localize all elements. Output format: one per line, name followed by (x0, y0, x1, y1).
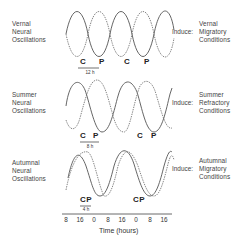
vernal-result-label: Vernal Migratory Conditions (199, 20, 230, 44)
vernal-interval-label: 12 h (80, 70, 100, 75)
label-line: Summer (12, 91, 46, 99)
vernal-p-wave (66, 12, 174, 58)
vernal-waves (66, 11, 174, 57)
axis-tick: 0 (129, 216, 143, 223)
summer-waves (66, 80, 172, 132)
autumnal-marker-cp1: CP (80, 195, 92, 204)
label-line: Oscillations (12, 36, 46, 44)
label-line: Migratory (199, 165, 230, 173)
label-line: Summer (199, 91, 230, 99)
summer-marker-c1: C (80, 131, 86, 140)
autumnal-interval-label: 4 h (78, 207, 94, 212)
summer-c-wave (66, 82, 172, 132)
label-line: Neural (12, 28, 46, 36)
summer-marker-p1: P (93, 131, 98, 140)
label-line: Neural (12, 167, 46, 175)
autumnal-c-wave (68, 151, 172, 196)
label-line: Vernal (12, 20, 46, 28)
axis-tick: 8 (143, 216, 157, 223)
vernal-marker-c1: C (80, 57, 86, 66)
summer-p-wave (66, 80, 172, 132)
label-line: Conditions (199, 107, 230, 115)
axis-title: Time (hours) (99, 227, 138, 234)
autumnal-marker-cp2: CP (133, 195, 145, 204)
autumnal-result-label: Autumnal Migratory Conditions (199, 157, 230, 181)
label-line: Autumnal (199, 157, 230, 165)
label-line: Autumnal (12, 159, 46, 167)
summer-induce-label: Induce: (172, 99, 193, 106)
label-line: Conditions (199, 36, 230, 44)
autumnal-season-label: Autumnal Neural Oscillations (12, 159, 46, 183)
summer-interval-label: 8 h (80, 144, 100, 149)
summer-result-label: Summer Refractory Conditions (199, 91, 230, 115)
axis-tick: 8 (59, 216, 73, 223)
axis-tick: 8 (101, 216, 115, 223)
label-line: Neural (12, 99, 46, 107)
axis-tick: 0 (87, 216, 101, 223)
vernal-marker-p2: P (144, 57, 149, 66)
summer-season-label: Summer Neural Oscillations (12, 91, 46, 115)
vernal-c-wave (66, 11, 174, 57)
vernal-induce-label: Induce: (172, 28, 193, 35)
label-line: Oscillations (12, 175, 46, 183)
label-line: Refractory (199, 99, 230, 107)
summer-marker-p2: P (151, 131, 156, 140)
label-line: Conditions (199, 173, 230, 181)
label-line: Oscillations (12, 107, 46, 115)
label-line: Vernal (199, 20, 230, 28)
autumnal-waves (66, 151, 174, 196)
summer-marker-c2: C (137, 131, 143, 140)
label-line: Migratory (199, 28, 230, 36)
vernal-marker-c2: C (124, 57, 130, 66)
axis-tick: 16 (73, 216, 87, 223)
vernal-season-label: Vernal Neural Oscillations (12, 20, 46, 44)
autumnal-induce-label: Induce: (172, 165, 193, 172)
axis-tick: 16 (157, 216, 171, 223)
axis-tick: 16 (115, 216, 129, 223)
vernal-marker-p1: P (99, 57, 104, 66)
